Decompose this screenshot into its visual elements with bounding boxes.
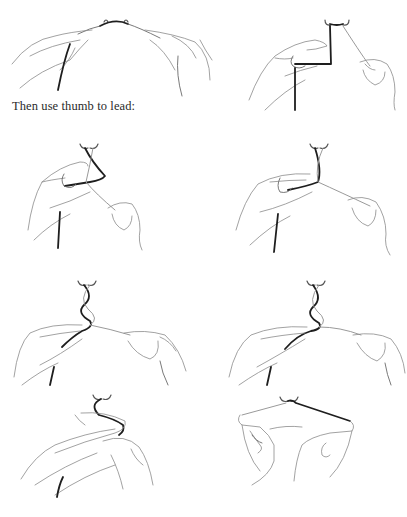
- illustration-6: [225, 275, 407, 385]
- illustration-4: [230, 130, 400, 255]
- illustration-3: [20, 130, 160, 250]
- illustration-2: [245, 0, 407, 110]
- illustration-8: [230, 385, 380, 495]
- illustration-1: [0, 0, 230, 100]
- instruction-caption: Then use thumb to lead:: [12, 99, 135, 114]
- illustration-7: [15, 385, 165, 505]
- illustration-5: [10, 275, 200, 385]
